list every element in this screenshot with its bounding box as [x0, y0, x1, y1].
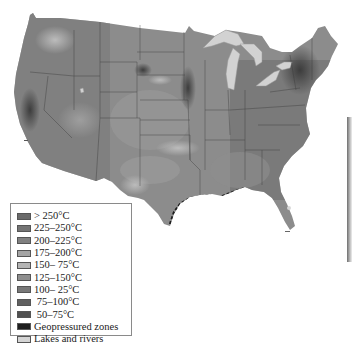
- legend-label: 225–250°C: [34, 222, 82, 234]
- legend-label: Lakes and rivers: [34, 333, 103, 344]
- legend-item: > 250°C: [17, 210, 131, 222]
- legend-label: 100– 25°C: [34, 284, 79, 296]
- legend-item: 175–200°C: [17, 247, 131, 259]
- legend-item: Lakes and rivers: [17, 333, 131, 344]
- great-salt-lake: [80, 88, 84, 93]
- legend-item: 75–100°C: [17, 296, 131, 308]
- legend-swatch: [17, 299, 31, 306]
- legend-item: 100– 25°C: [17, 284, 131, 296]
- legend-swatch: [17, 323, 31, 330]
- legend-swatch: [17, 213, 31, 220]
- legend-swatch: [17, 274, 31, 281]
- legend-swatch: [17, 250, 31, 257]
- legend-item: 200–225°C: [17, 235, 131, 247]
- legend-item: 50–75°C: [17, 308, 131, 320]
- legend-label: 150– 75°C: [34, 259, 79, 271]
- legend-swatch: [17, 262, 31, 269]
- legend-swatch: [17, 336, 31, 343]
- legend-label: 75–100°C: [34, 296, 79, 308]
- legend-label: 125–150°C: [34, 272, 82, 284]
- page-edge-shadow: [347, 117, 352, 262]
- legend-swatch: [17, 225, 31, 232]
- legend-label: Geopressured zones: [34, 321, 118, 333]
- legend-label: 175–200°C: [34, 247, 82, 259]
- legend-item: 225–250°C: [17, 222, 131, 234]
- legend-swatch: [17, 286, 31, 293]
- legend: > 250°C 225–250°C 200–225°C 175–200°C 15…: [10, 203, 132, 336]
- legend-item: 125–150°C: [17, 271, 131, 283]
- legend-label: 200–225°C: [34, 235, 82, 247]
- legend-label: > 250°C: [34, 210, 70, 222]
- legend-label: 50–75°C: [34, 309, 74, 321]
- channel-islands: [24, 140, 28, 141]
- legend-item: 150– 75°C: [17, 259, 131, 271]
- florida-keys: [285, 231, 290, 232]
- legend-swatch: [17, 311, 31, 318]
- legend-item: Geopressured zones: [17, 321, 131, 333]
- lake-okeechobee: [287, 206, 291, 210]
- legend-swatch: [17, 237, 31, 244]
